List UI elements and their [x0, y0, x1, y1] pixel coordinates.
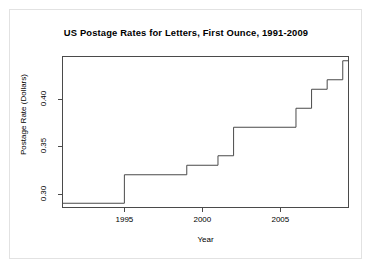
- x-tick-mark: [124, 208, 125, 212]
- x-tick-label: 2005: [263, 215, 297, 224]
- y-tick-label: 0.30: [39, 180, 48, 206]
- x-axis-title: Year: [62, 235, 349, 244]
- y-tick-label: 0.40: [39, 85, 48, 111]
- x-tick-label: 1995: [107, 215, 141, 224]
- y-axis-title: Postage Rate (Dollars): [19, 40, 28, 190]
- chart-figure: US Postage Rates for Letters, First Ounc…: [0, 0, 372, 269]
- chart-title: US Postage Rates for Letters, First Ounc…: [0, 27, 372, 38]
- postage-rate-step-line: [62, 61, 349, 204]
- x-tick-mark: [280, 208, 281, 212]
- x-tick-mark: [202, 208, 203, 212]
- y-tick-mark: [58, 99, 62, 100]
- y-tick-label: 0.35: [39, 133, 48, 159]
- y-tick-mark: [58, 146, 62, 147]
- y-tick-mark: [58, 194, 62, 195]
- step-line-series: [62, 56, 349, 208]
- x-tick-label: 2000: [185, 215, 219, 224]
